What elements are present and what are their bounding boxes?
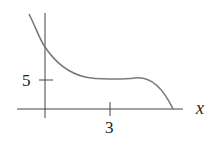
- y-tick-label: 5: [22, 71, 31, 90]
- x-tick-label: 3: [105, 118, 114, 137]
- graph: 5 3 x: [0, 0, 211, 149]
- x-axis-label: x: [195, 98, 204, 118]
- function-curve: [29, 14, 173, 109]
